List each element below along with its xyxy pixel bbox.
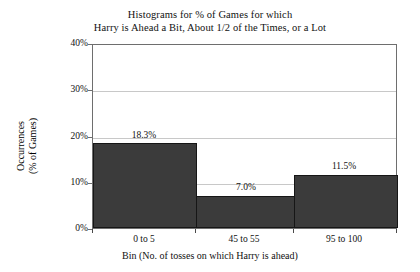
x-tick-label-95-to-100: 95 to 100 [300,233,388,245]
chart-title-line-2: Harry is Ahead a Bit, About 1/2 of the T… [0,21,420,34]
x-tick-label-0-to-5: 0 to 5 [100,233,188,245]
y-tick-label-0: 0% [54,223,88,234]
y-axis-title: Occurrences (% of Games) [4,96,50,196]
x-tick-mark-left [92,229,93,233]
y-tick-label-20: 20% [54,131,88,142]
x-axis-title: Bin (No. of tosses on which Harry is ahe… [0,250,420,262]
data-label-0-to-5: 18.3% [100,130,188,141]
x-tick-mark-2 [293,229,294,233]
y-axis-title-line-2: (% of Games) [27,118,39,174]
histogram-chart: Histograms for % of Games for which Harr… [0,0,420,272]
bar-95-to-100[interactable] [294,175,398,228]
y-tick-label-30: 30% [54,84,88,95]
x-tick-label-45-to-55: 45 to 55 [200,233,288,245]
x-tick-mark-right [396,229,397,233]
bar-45-to-55[interactable] [196,196,295,228]
y-axis-ticks: 40% 30% 20% 10% 0% [50,44,88,229]
bar-0-to-5[interactable] [93,143,197,228]
y-tick-label-40: 40% [54,38,88,49]
y-axis-title-line-1: Occurrences [15,118,27,174]
chart-title: Histograms for % of Games for which Harr… [0,8,420,34]
y-tick-label-10: 10% [54,177,88,188]
x-tick-mark-1 [195,229,196,233]
data-label-95-to-100: 11.5% [300,161,388,172]
data-label-45-to-55: 7.0% [202,182,290,193]
chart-title-line-1: Histograms for % of Games for which [0,8,420,21]
